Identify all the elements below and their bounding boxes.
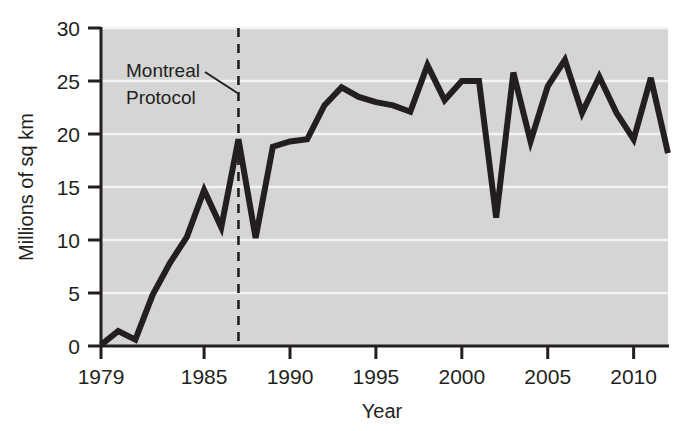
x-tick-label-1979: 1979 <box>78 365 125 388</box>
x-tick-label-2005: 2005 <box>524 365 571 388</box>
y-tick-label-15: 15 <box>57 176 80 199</box>
y-tick-label-20: 20 <box>57 123 80 146</box>
y-tick-label-0: 0 <box>68 335 80 358</box>
y-tick-label-5: 5 <box>68 282 80 305</box>
x-tick-label-2010: 2010 <box>610 365 657 388</box>
montreal-protocol-label-line1: Montreal <box>126 60 200 81</box>
y-axis-ticks: 051015202530 <box>57 17 101 358</box>
x-tick-label-2000: 2000 <box>438 365 485 388</box>
x-tick-label-1990: 1990 <box>267 365 314 388</box>
y-tick-label-30: 30 <box>57 17 80 40</box>
x-axis-title: Year <box>362 400 403 422</box>
chart-svg: 051015202530 197919851990199520002005201… <box>0 0 686 431</box>
x-axis-ticks: 1979198519901995200020052010 <box>78 346 657 388</box>
y-tick-label-10: 10 <box>57 229 80 252</box>
x-tick-label-1995: 1995 <box>353 365 400 388</box>
y-axis-title: Millions of sq km <box>15 113 37 261</box>
x-tick-label-1985: 1985 <box>181 365 228 388</box>
ozone-hole-area-chart: 051015202530 197919851990199520002005201… <box>0 0 686 431</box>
y-tick-label-25: 25 <box>57 70 80 93</box>
montreal-protocol-label-line2: Protocol <box>126 87 196 108</box>
